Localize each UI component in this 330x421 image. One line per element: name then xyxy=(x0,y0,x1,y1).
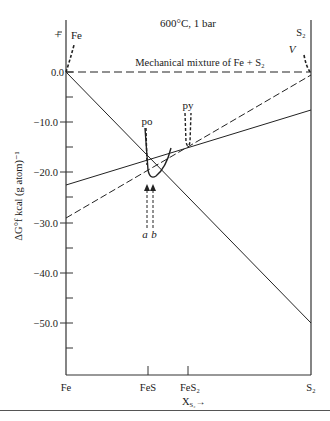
v-label: V xyxy=(289,43,297,55)
xtick-label-fe: Fe xyxy=(61,382,72,393)
po-label: po xyxy=(142,115,154,127)
mechanical-mixture-label: Mechanical mixture of Fe + S₂ xyxy=(135,57,265,68)
arrow-b xyxy=(150,184,156,228)
fe-top-label: Fe xyxy=(71,29,82,41)
ytick-label-0: 0.0 xyxy=(51,67,64,78)
a-label: a xyxy=(142,228,148,240)
x-ticks xyxy=(148,366,188,375)
s2-curve xyxy=(304,55,310,72)
metastable-tangent-line xyxy=(66,75,311,218)
xtick-label-s2: S₂ xyxy=(306,382,316,393)
ytick-label-30: −30.0 xyxy=(34,218,58,229)
xtick-label-fes2: FeS₂ xyxy=(180,382,200,393)
chart-title: 600°C, 1 bar xyxy=(160,17,216,29)
ytick-label-50: −50.0 xyxy=(34,318,58,329)
s2-top-label: S₂ xyxy=(296,27,306,38)
bottom-rule xyxy=(0,410,330,411)
x-axis-label: XS₂→ xyxy=(182,396,205,408)
ytick-label-20: −20.0 xyxy=(34,167,58,178)
plus-sign: + xyxy=(54,27,61,42)
arrow-a xyxy=(144,184,150,228)
free-energy-diagram: 0.0 −10.0 −20.0 −30.0 −40.0 −50.0 + ΔG°f… xyxy=(0,0,330,421)
xtick-label-fes: FeS xyxy=(140,382,157,393)
ytick-label-40: −40.0 xyxy=(34,268,58,279)
y-axis-label: ΔG°f kcal (g atom)⁻¹ xyxy=(13,151,25,240)
py-label: py xyxy=(183,99,195,111)
svg-text:XS₂→: XS₂→ xyxy=(182,396,205,408)
fe-curve xyxy=(66,45,74,72)
b-label: b xyxy=(151,228,157,240)
po-py-tangent-line xyxy=(66,110,311,185)
ytick-label-10: −10.0 xyxy=(34,117,58,128)
py-curve xyxy=(185,113,191,146)
chart-svg: 0.0 −10.0 −20.0 −30.0 −40.0 −50.0 + ΔG°f… xyxy=(0,0,330,421)
